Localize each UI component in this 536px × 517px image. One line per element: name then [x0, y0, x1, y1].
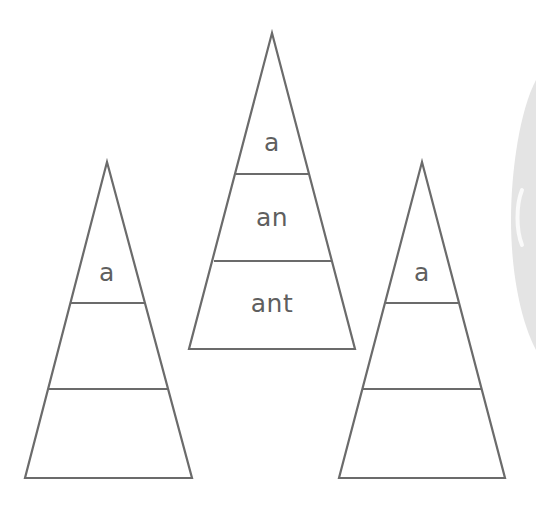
pyramid-left	[25, 162, 192, 478]
word-pyramid-worksheet: a a an ant a	[0, 0, 536, 517]
pyramid-left-row-1: a	[99, 258, 115, 288]
pyramid-middle-row-3: ant	[251, 289, 293, 319]
decorative-grey-shape	[511, 80, 536, 350]
pyramid-right	[339, 162, 505, 478]
pyramid-middle-row-2: an	[256, 203, 288, 233]
pyramid-right-row-1: a	[414, 258, 430, 288]
pyramid-drawings	[0, 0, 536, 517]
pyramid-middle-row-1: a	[264, 128, 280, 158]
